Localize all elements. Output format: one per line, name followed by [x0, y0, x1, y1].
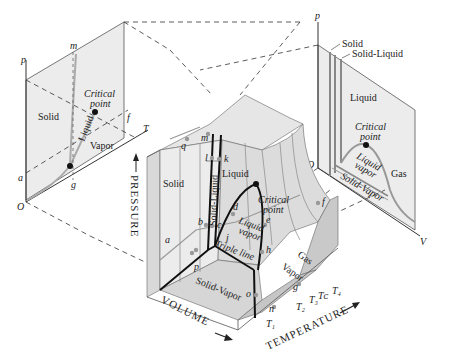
dashed-line: [26, 202, 90, 236]
point-g-label: g: [293, 281, 298, 292]
point-d-dot: [231, 212, 235, 216]
isotherm-tc-label: Tᴄ: [318, 290, 329, 301]
callout-solid-liquid: Solid-Liquid: [352, 48, 403, 59]
isotherm-t2-label: T₂: [296, 301, 306, 312]
point-m-label: m: [70, 40, 77, 51]
critical-point-dot: [253, 181, 259, 187]
triple-point-dot: [67, 163, 73, 169]
point-f-dot: [316, 201, 320, 205]
point-q-label: q: [181, 140, 186, 151]
point-o-dot: [254, 293, 258, 297]
point-b-label: b: [198, 216, 203, 227]
point-p-dot: [190, 251, 194, 255]
side-wall: [147, 150, 160, 297]
point-f-label: f: [127, 112, 131, 123]
region-solid-label: Solid: [163, 178, 184, 189]
critical-point-dot: [363, 142, 369, 148]
p-axis-label: p: [314, 10, 320, 21]
dashed-line: [200, 45, 318, 70]
temperature-axis-label: TEMPERATURE: [264, 303, 350, 352]
arrowhead-icon: [224, 334, 233, 341]
region-solid-liquid-label: Solid-Liquid: [207, 175, 220, 226]
isotherm-t4-label: T₄: [332, 285, 342, 296]
pvt-diagram: p T O a g m f Solid Vapor Liquid Critica…: [0, 0, 450, 364]
point-l-dot: [210, 156, 214, 160]
region-gas-label: Gas: [391, 168, 407, 179]
t-axis-label: T: [143, 123, 150, 134]
point-h-label: h: [266, 244, 271, 255]
origin-label: O: [17, 201, 24, 212]
point-k-dot: [217, 157, 221, 161]
critical-point-label-2: point: [262, 204, 284, 215]
pressure-axis: PRESSURE: [129, 153, 141, 237]
dashed-line: [240, 22, 300, 95]
region-solid-label: Solid: [38, 111, 59, 122]
point-a-dot: [194, 248, 198, 252]
point-o-label: o: [246, 288, 251, 299]
point-m-label: m: [201, 132, 208, 143]
point-l-label: l: [205, 152, 208, 163]
callout-line: [342, 54, 350, 58]
arrowhead-icon: [133, 153, 139, 161]
point-a-label: a: [18, 172, 23, 183]
dashed-line: [124, 22, 170, 50]
critical-point-label-2: point: [89, 98, 111, 109]
region-vapor-label: Vapor: [90, 140, 115, 151]
pressure-axis-label: PRESSURE: [129, 175, 141, 237]
v-axis-label: V: [420, 236, 428, 247]
point-e-label: e: [266, 214, 271, 225]
isotherm-t1-label: T₁: [266, 318, 275, 329]
critical-point-label-2: point: [359, 131, 381, 142]
point-a-label: a: [165, 234, 170, 245]
p-axis-label: p: [20, 54, 26, 65]
dashed-line: [90, 236, 145, 262]
point-g-label: g: [71, 179, 76, 190]
point-k-label: k: [224, 153, 229, 164]
point-p-label: p: [193, 261, 199, 272]
region-liquid-label: Liquid: [222, 168, 249, 179]
point-h-dot: [260, 250, 264, 254]
temperature-axis: TEMPERATURE: [264, 302, 360, 352]
region-liquid-label: Liquid: [350, 92, 377, 103]
point-n-label: n: [269, 303, 274, 314]
callout-line: [331, 44, 340, 50]
dashed-line: [170, 50, 212, 95]
critical-point-dot: [92, 109, 98, 115]
